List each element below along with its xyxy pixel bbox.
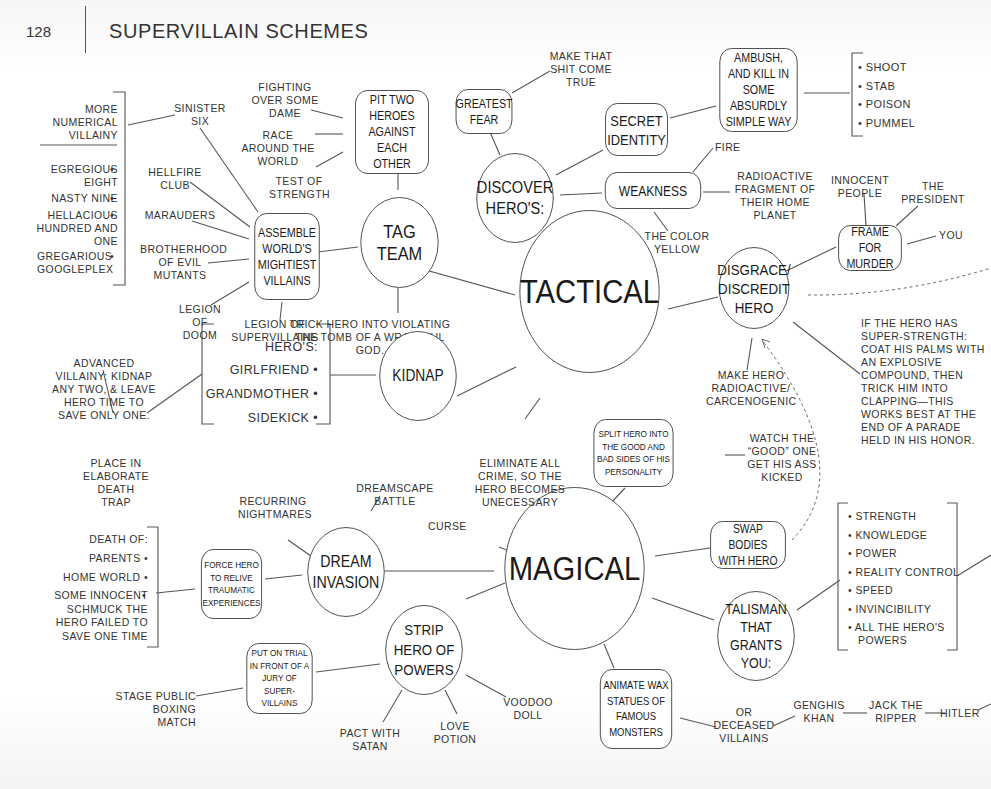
frame-innocent: INNOCENT PEOPLE [830,174,890,200]
schmuck-text: SOME INNOCENT SCHMUCK THE HERO FAILED TO… [54,589,148,642]
bullet: • [110,250,114,263]
method-stab: • STAB [858,80,895,92]
numerical-hellacious: HELLACIOUS HUNDRED AND ONE [30,209,118,248]
trial-label: PUT ON TRIAL IN FRONT OF A JURY OF SUPER… [250,647,309,710]
team-brotherhood: BROTHERHOOD OF EVIL MUTANTS [140,243,220,282]
animate-wax-label: ANIMATE WAX STATUES OF FAMOUS MONSTERS [603,678,668,740]
power-invincibility: • INVINCIBILITY [848,603,931,615]
weakness-yellow: THE COLOR YELLOW [642,230,712,256]
swap-bodies-label: SWAP BODIES WITH HERO [714,521,781,569]
watch-good-one-note: WATCH THE “GOOD” ONE GET HIS ASS KICKED [742,432,822,484]
strip-powers-label: STRIP HERO OF POWERS [390,620,459,680]
kidnap-girlfriend: GIRLFRIEND • [200,363,318,377]
hub-magical: MAGICAL [504,487,644,650]
eliminate-crime-note: ELIMINATE ALL CRIME, SO THE HERO BECOMES… [465,457,575,509]
make-radioactive: MAKE HERO RADIOACTIVE/ CARCENOGENIC [706,369,796,408]
assemble-label: ASSEMBLE WORLD'S MIGHTIEST VILLAINS [258,225,316,289]
option-test-strength: TEST OF STRENGTH [269,175,329,201]
team-marauders: MARAUDERS [140,209,220,222]
hub-tactical-label: TACTICAL [520,272,659,311]
frame-president: THE PRESIDENT [895,180,971,206]
node-discover-heros: DISCOVER HERO'S: [476,153,553,243]
weakness-radioactive: RADIOACTIVE FRAGMENT OF THEIR HOME PLANE… [725,170,825,222]
node-pit-two-heroes: PIT TWO HEROES AGAINST EACH OTHER [355,90,429,174]
shoot-text: SHOOT [866,61,907,73]
super-strength-note: IF THE HERO HAS SUPER-STRENGTH: COAT HIS… [861,317,991,447]
node-weakness: WEAKNESS [605,172,701,209]
node-secret-identity: SECRET IDENTITY [605,103,668,156]
recurring-nightmares: RECURRING NIGHTMARES [238,495,308,521]
deceased-villains-label: OR DECEASED VILLAINS [713,706,775,745]
pit-two-heroes-label: PIT TWO HEROES AGAINST EACH OTHER [359,92,424,172]
kidnap-sidekick: SIDEKICK • [200,411,318,425]
node-disgrace: DISGRACE/ DISCREDIT HERO [719,247,790,329]
frame-label: FRAME FOR MURDER [842,224,897,272]
death-of-header: DEATH OF: [40,533,148,545]
node-kidnap: KIDNAP [379,331,456,421]
invincibility-text: INVINCIBILITY [855,603,931,615]
knowledge-text: KNOWLEDGE [855,529,927,541]
method-pummel: • PUMMEL [858,117,915,129]
page: 128 SUPERVILLAIN SCHEMES [0,0,991,789]
team-hellfire-club: HELLFIRE CLUB [145,166,205,192]
weakness-label: WEAKNESS [619,183,687,199]
kidnap-label: KIDNAP [392,367,443,385]
team-sinister-six: SINISTER SIX [165,102,235,128]
death-innocent-schmuck: SOME INNOCENT SCHMUCK THE HERO FAILED TO… [50,589,148,643]
hellacious-text: HELLACIOUS HUNDRED AND ONE [37,209,118,247]
reality-text: REALITY CONTROL [855,566,959,578]
bullet: • [110,163,114,176]
more-numerical-villainy: MORE NUMERICAL VILLAINY [38,103,118,142]
discover-label: DISCOVER HERO'S: [477,177,553,219]
method-poison: • POISON [858,98,911,110]
nasty-text: NASTY NINE [51,192,118,204]
node-greatest-fear: GREATEST FEAR [456,89,513,134]
death-home-world: HOME WORLD • [40,571,148,583]
node-talisman: TALISMAN THAT GRANTS YOU: [717,591,794,681]
numerical-gregarious: GREGARIOUS GOOGLEPLEX [37,250,117,276]
villain-genghis: GENGHIS KHAN [793,699,845,725]
numerical-nasty: NASTY NINE [30,192,118,205]
bullet: • [110,209,114,222]
pummel-text: PUMMEL [866,117,915,129]
pact-with-satan: PACT WITH SATAN [330,727,410,753]
node-swap-bodies: SWAP BODIES WITH HERO [710,521,786,569]
numerical-egregious: EGREGIOUS EIGHT [30,163,118,189]
voodoo-doll: VOODOO DOLL [502,696,554,722]
power-knowledge: • KNOWLEDGE [848,529,927,541]
hub-magical-label: MAGICAL [509,549,641,588]
node-dream-invasion: DREAM INVASION [307,527,384,617]
power-strength: • STRENGTH [848,510,916,522]
power-reality-control: • REALITY CONTROL [848,566,959,578]
option-race-around: RACE AROUND THE WORLD [238,129,318,168]
love-potion: LOVE POTION [430,720,480,746]
node-force-relive: FORCE HERO TO RELIVE TRAUMATIC EXPERIENC… [201,549,262,619]
talisman-label: TALISMAN THAT GRANTS YOU: [720,600,792,672]
force-relive-label: FORCE HERO TO RELIVE TRAUMATIC EXPERIENC… [202,559,260,609]
node-tag-team: TAG TEAM [360,197,438,288]
frame-you: YOU [939,229,963,242]
node-split-hero: SPLIT HERO INTO THE GOOD AND BAD SIDES O… [594,419,674,487]
death-trap-note: PLACE IN ELABORATE DEATH TRAP [82,457,150,509]
stab-text: STAB [866,80,896,92]
grandmother-text: GRANDMOTHER [206,387,310,401]
weakness-fire: FIRE [715,141,741,154]
hub-tactical: TACTICAL [519,210,659,373]
node-ambush: AMBUSH, AND KILL IN SOME ABSURDLY SIMPLE… [719,48,797,132]
curse-label: CURSE [428,520,467,533]
egregious-text: EGREGIOUS EIGHT [51,163,118,188]
power-power: • POWER [848,547,897,559]
split-hero-label: SPLIT HERO INTO THE GOOD AND BAD SIDES O… [597,428,670,478]
villain-jack: JACK THE RIPPER [865,699,927,725]
secret-identity-label: SECRET IDENTITY [607,111,666,149]
speed-text: SPEED [855,584,893,596]
home-world-text: HOME WORLD [63,571,141,583]
node-frame-murder: FRAME FOR MURDER [838,225,902,271]
villain-hitler: HITLER [940,707,980,720]
kidnap-list-header: HERO'S: [210,340,318,354]
strength-text: STRENGTH [855,510,916,522]
team-legion-doom: LEGION OF DOOM [174,303,226,342]
node-put-on-trial: PUT ON TRIAL IN FRONT OF A JURY OF SUPER… [246,643,312,714]
power-text: POWER [855,547,897,559]
girlfriend-text: GIRLFRIEND [230,363,310,377]
